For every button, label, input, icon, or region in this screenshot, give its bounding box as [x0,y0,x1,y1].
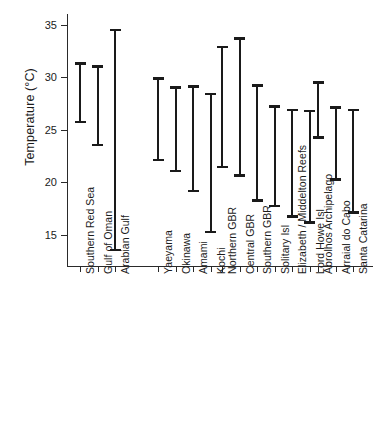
error-bar [170,86,181,172]
x-tick-label: Amami [197,241,209,274]
x-tick [158,267,159,272]
x-tick-label: Santa Catarina [357,203,369,274]
error-bar-stem [256,84,258,202]
x-tick-label: Northern GBR [226,207,238,274]
error-bar-stem [97,65,99,146]
error-bar-cap-min [188,190,199,193]
error-bar [205,93,216,234]
chart-root: Temperature (°C) 1520253035 Southern Red… [0,0,379,428]
error-bar-cap-min [252,199,263,202]
error-bar-cap-min [153,159,164,162]
x-tick [310,267,311,272]
x-tick [115,267,116,272]
x-tick [176,267,177,272]
error-bar-stem [175,86,177,172]
error-bar [269,105,280,207]
y-tick [61,25,67,26]
x-tick-label: Solitary Isl [279,225,291,274]
error-bar-cap-min [92,144,103,147]
error-bar [92,65,103,146]
error-bar-cap-min [234,174,245,177]
x-tick [193,267,194,272]
x-tick-label: Abrolhos Archipelago [322,174,334,274]
y-tick [61,77,67,78]
error-bar-stem [335,106,337,181]
x-tick-label: Arraial do Cabo [340,200,352,274]
x-tick-label: Arabian Gulf [119,215,131,274]
y-tick [61,130,67,131]
error-bar-stem [309,110,311,224]
y-tick [61,235,67,236]
error-bar [153,77,164,161]
error-bar-cap-min [313,136,324,139]
error-bar-stem [192,85,194,192]
error-bar-cap-min [205,231,216,234]
error-bar-stem [114,29,116,252]
x-tick-label: Southern GBR [261,205,273,274]
x-tick [80,267,81,272]
y-tick [61,182,67,183]
error-bar-cap-min [217,166,228,169]
error-bar [330,106,341,181]
error-bar-stem [274,105,276,207]
error-bar [313,81,324,139]
x-tick [336,267,337,272]
error-bar-stem [157,77,159,161]
x-tick-label: Okinawa [180,233,192,274]
error-bar [188,85,199,192]
y-axis-line [67,14,68,267]
error-bar-stem [210,93,212,234]
y-tick-label: 20 [17,176,57,188]
error-bar-stem [239,37,241,177]
error-bar-cap-min [170,170,181,173]
error-bar [75,62,86,123]
error-bar-stem [221,46,223,169]
x-tick [98,267,99,272]
x-tick [211,267,212,272]
x-tick [240,267,241,272]
error-bar [348,109,359,214]
x-tick [292,267,293,272]
error-bar-stem [352,109,354,214]
error-bar-stem [79,62,81,123]
error-bar [234,37,245,177]
x-tick-label: Yaeyama [162,230,174,274]
error-bar [217,46,228,169]
x-tick-label: Central GBR [244,214,256,274]
x-tick [275,267,276,272]
error-bar [252,84,263,202]
y-tick-label: 15 [17,229,57,241]
error-bar-stem [317,81,319,139]
y-tick-label: 35 [17,19,57,31]
x-tick [353,267,354,272]
x-tick-label: Elizabeth / Middelton Reefs [296,145,308,274]
x-tick-label: Southern Red Sea [84,187,96,274]
error-bar-cap-min [75,121,86,124]
x-tick-label: Gulf of Oman [102,211,114,274]
error-bar-stem [291,109,293,218]
y-tick-label: 30 [17,71,57,83]
x-tick-label: Kochi [215,247,227,274]
y-tick-label: 25 [17,124,57,136]
x-tick [257,267,258,272]
